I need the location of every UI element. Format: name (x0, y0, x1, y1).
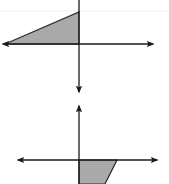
top-coordinate-plane (3, 0, 153, 92)
shaded-trapezoid (79, 160, 117, 184)
shaded-triangle (5, 12, 79, 44)
bottom-coordinate-plane (18, 106, 157, 184)
diagram-canvas (0, 0, 169, 184)
